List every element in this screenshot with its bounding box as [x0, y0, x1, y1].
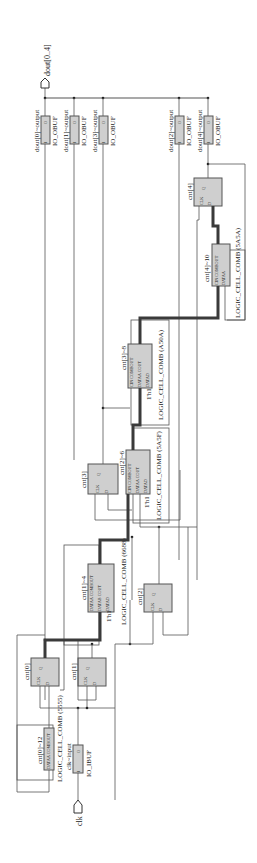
register-cnt0[interactable]: Q CLK D cnt[0] [23, 658, 59, 686]
register-cnt2[interactable]: Q CLK D cnt[2] [136, 584, 172, 612]
svg-text:IO_OBUF: IO_OBUF [185, 116, 193, 146]
output-buffer[interactable]: O I dout[3]~output IO_OBUF [91, 98, 117, 420]
svg-text:DATAA COUT: DATAA COUT [135, 466, 140, 493]
svg-text:cnt[3]~8: cnt[3]~8 [120, 345, 128, 370]
svg-text:cnt[3]: cnt[3] [80, 471, 88, 488]
svg-text:IO_OBUF: IO_OBUF [109, 116, 117, 146]
svg-text:O: O [76, 750, 81, 753]
svg-text:cnt[1]: cnt[1] [70, 663, 78, 680]
logic-cell-cnt1-4[interactable]: DATAA COMBOUT DATAB COUT DATAD cnt[1]~4 … [64, 537, 128, 645]
svg-text:LOGIC_CELL_COMB (5A5A): LOGIC_CELL_COMB (5A5A) [234, 227, 242, 318]
svg-text:D: D [207, 202, 212, 205]
svg-text:CIN COMBOUT: CIN COMBOUT [127, 463, 132, 493]
output-bus [44, 88, 210, 99]
svg-text:DATAA: DATAA [221, 271, 226, 285]
svg-text:CLK: CLK [83, 677, 88, 685]
svg-text:O: O [177, 121, 182, 124]
svg-text:CLK: CLK [150, 603, 155, 611]
svg-text:DATAD: DATAD [143, 479, 148, 493]
svg-text:O: O [101, 121, 106, 124]
register-cnt1[interactable]: Q CLK D cnt[1] [70, 658, 106, 686]
svg-text:dout[1]~output: dout[1]~output [62, 110, 70, 152]
logic-cell-cnt2-6[interactable]: CIN COMBOUT DATAA COUT DATAD cnt[2]~6 1'… [118, 428, 169, 523]
svg-text:DATAA COMBOUT: DATAA COMBOUT [89, 575, 94, 611]
svg-text:IO_OBUF: IO_OBUF [214, 116, 222, 146]
logic-cell-cnt4-10[interactable]: CIN COMBOUT DATAA cnt[4]~10 LOGIC_CELL_C… [203, 227, 245, 320]
svg-text:cnt[1]~4: cnt[1]~4 [80, 575, 88, 600]
output-buffer[interactable]: O I dout[0]~output IO_OBUF [33, 98, 59, 700]
register-cnt4[interactable]: Q CLK D cnt[4] [186, 178, 222, 206]
output-buffer[interactable]: O I dout[4]~output IO_OBUF [196, 98, 222, 178]
svg-text:Q: Q [96, 473, 101, 476]
svg-text:1'h1: 1'h1 [145, 388, 153, 400]
svg-text:cnt[2]: cnt[2] [136, 588, 144, 605]
svg-text:IO_OBUF: IO_OBUF [80, 116, 88, 146]
svg-text:DATAD: DATAD [105, 597, 110, 611]
svg-text:Q: Q [151, 593, 156, 596]
output-port-dout[interactable]: dout[0..4] [41, 44, 52, 88]
svg-text:dout[0]~output: dout[0]~output [33, 110, 41, 152]
svg-text:DATAD: DATAD [145, 373, 150, 387]
svg-text:cnt[4]: cnt[4] [186, 183, 194, 200]
svg-text:dout[4]~output: dout[4]~output [196, 110, 204, 152]
svg-text:LOGIC_CELL_COMB (5A5F): LOGIC_CELL_COMB (5A5F) [155, 430, 163, 520]
svg-text:LOGIC_CELL_COMB (A50A): LOGIC_CELL_COMB (A50A) [157, 329, 165, 420]
svg-text:CLK: CLK [199, 197, 204, 205]
register-cnt3[interactable]: Q CLK D cnt[3] [80, 464, 118, 494]
svg-text:Q: Q [201, 187, 206, 190]
svg-text:Q: Q [85, 667, 90, 670]
svg-text:O: O [43, 121, 48, 124]
svg-text:DATAA COMBOUT: DATAA COMBOUT [46, 733, 51, 769]
svg-text:LOGIC_CELL_COMB (5555): LOGIC_CELL_COMB (5555) [56, 694, 64, 782]
wire-cnt4-feedback [197, 163, 245, 580]
carry-chain-bus [45, 206, 218, 658]
svg-text:cnt[0]~12: cnt[0]~12 [36, 736, 44, 764]
svg-text:1'h1: 1'h1 [143, 496, 151, 508]
svg-text:O: O [206, 121, 211, 124]
svg-text:1'h1: 1'h1 [105, 610, 113, 622]
svg-text:dout[2]~output: dout[2]~output [167, 110, 175, 152]
svg-text:IO_IBUF: IO_IBUF [85, 750, 93, 777]
input-port-clk[interactable]: clk [74, 800, 84, 826]
input-buffer-clk[interactable]: O I clk~input IO_IBUF [65, 743, 93, 777]
svg-text:DATAA COUT: DATAA COUT [137, 360, 142, 387]
svg-text:cnt[4]~10: cnt[4]~10 [203, 254, 211, 282]
svg-text:D: D [45, 682, 50, 685]
logic-cell-cnt3-8[interactable]: CIN COMBOUT DATAA COUT DATAD cnt[3]~8 1'… [120, 320, 169, 425]
svg-text:CLK: CLK [36, 677, 41, 685]
svg-text:O: O [72, 121, 77, 124]
svg-text:D: D [92, 682, 97, 685]
logic-cell-cnt0-12[interactable]: DATAA COMBOUT cnt[0]~12 LOGIC_CELL_COMB … [17, 694, 64, 782]
svg-text:D: D [104, 490, 109, 493]
svg-text:IO_OBUF: IO_OBUF [51, 116, 59, 146]
schematic-canvas: dout[0..4] O I dout[0]~output IO_OBUF O … [0, 0, 257, 863]
svg-text:dout[3]~output: dout[3]~output [91, 110, 99, 152]
svg-text:CLK: CLK [95, 485, 100, 493]
svg-text:CIN COMBOUT: CIN COMBOUT [129, 357, 134, 387]
input-port-label: clk [75, 816, 84, 826]
output-buffer[interactable]: O I dout[1]~output IO_OBUF [62, 98, 88, 460]
svg-text:DATAB COUT: DATAB COUT [97, 584, 102, 611]
svg-text:clk~input: clk~input [65, 743, 73, 770]
svg-text:CIN COMBOUT: CIN COMBOUT [214, 255, 219, 285]
svg-text:D: D [158, 608, 163, 611]
output-port-label: dout[0..4] [43, 44, 52, 76]
svg-text:LOGIC_CELL_COMB (6688): LOGIC_CELL_COMB (6688) [120, 537, 128, 625]
svg-text:cnt[2]~6: cnt[2]~6 [118, 450, 126, 475]
svg-text:Q: Q [38, 667, 43, 670]
svg-text:cnt[0]: cnt[0] [23, 663, 31, 680]
